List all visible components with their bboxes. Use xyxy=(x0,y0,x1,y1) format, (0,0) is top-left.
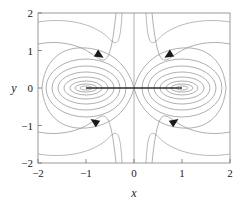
x-axis-title: x xyxy=(130,186,137,200)
y-tick-label-0: 0 xyxy=(28,82,34,94)
x-tick-label-m1: −1 xyxy=(80,167,92,179)
y-axis-title: y xyxy=(10,81,17,95)
y-tick-label-1: 1 xyxy=(28,45,34,57)
x-tick-label-2: 2 xyxy=(227,167,233,179)
x-tick-label-0: 0 xyxy=(131,167,137,179)
y-tick-label-m1: −1 xyxy=(21,120,33,132)
x-tick-label-m2: −2 xyxy=(32,167,44,179)
phase-portrait-figure: 2 1 0 −1 −2 −2 −1 0 1 2 x y xyxy=(0,0,251,206)
y-tick-label-2: 2 xyxy=(28,7,34,19)
plot-canvas: 2 1 0 −1 −2 −2 −1 0 1 2 x y xyxy=(0,0,251,206)
x-tick-label-1: 1 xyxy=(179,167,185,179)
